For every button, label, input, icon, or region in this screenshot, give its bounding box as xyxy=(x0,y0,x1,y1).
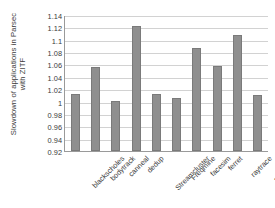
y-axis-tick-label: 1.1 xyxy=(38,36,62,45)
bar[interactable] xyxy=(71,94,80,151)
y-axis-tick-label: 0.92 xyxy=(38,148,62,157)
bar-slot xyxy=(126,16,146,151)
x-axis-tick-labels: blackscholesbodytrackcannealdedupStreamc… xyxy=(64,152,268,208)
bar-slot xyxy=(248,16,268,151)
bar[interactable] xyxy=(233,35,242,151)
bar[interactable] xyxy=(172,98,181,151)
y-axis-tick-label: 1.04 xyxy=(38,73,62,82)
bar[interactable] xyxy=(152,94,161,151)
bar[interactable] xyxy=(111,101,120,151)
y-axis-title-line-2: with ZITF xyxy=(18,58,27,91)
y-axis-tick-label: 0.96 xyxy=(38,123,62,132)
bar-slot xyxy=(65,16,85,151)
y-axis-tick-label: 1.06 xyxy=(38,61,62,70)
bar[interactable] xyxy=(192,48,201,151)
bar[interactable] xyxy=(132,26,141,151)
y-axis-tick-label: 0.94 xyxy=(38,135,62,144)
y-axis-tick-label: 1.08 xyxy=(38,49,62,58)
bar[interactable] xyxy=(253,95,262,151)
bar-slot xyxy=(207,16,227,151)
y-axis-tick-label: 0.98 xyxy=(38,110,62,119)
y-axis-tick-label: 1 xyxy=(38,98,62,107)
y-axis-title-line-1: Slowdown of applications in Parsec xyxy=(9,13,18,135)
y-axis-tick-labels: 1.141.121.11.081.061.041.0210.980.960.94… xyxy=(38,16,62,152)
bar-chart-figure: Slowdown of applications in Parsec with … xyxy=(0,0,275,208)
y-axis-tick-label: 1.14 xyxy=(38,12,62,21)
bars-container xyxy=(65,16,268,151)
plot-area xyxy=(64,16,268,152)
bar-slot xyxy=(106,16,126,151)
y-axis-title: Slowdown of applications in Parsec with … xyxy=(1,0,35,150)
bar[interactable] xyxy=(213,66,222,151)
y-axis-tick-label: 1.02 xyxy=(38,86,62,95)
bar-slot xyxy=(187,16,207,151)
bar-slot xyxy=(85,16,105,151)
bar-slot xyxy=(146,16,166,151)
bar[interactable] xyxy=(91,67,100,151)
bar-slot xyxy=(166,16,186,151)
x-axis-tick-label: raytrace xyxy=(249,154,274,179)
y-axis-tick-label: 1.12 xyxy=(38,24,62,33)
bar-slot xyxy=(227,16,247,151)
